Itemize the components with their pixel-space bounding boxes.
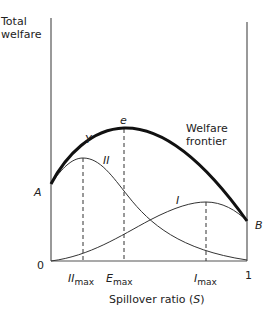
curve-ii <box>51 158 247 260</box>
ii-max-label: IImax <box>68 272 95 287</box>
origin-label: 0 <box>37 259 44 272</box>
point-e-label: e <box>120 114 127 127</box>
point-a-label: A <box>33 186 42 199</box>
i-max-label: Imax <box>194 272 218 287</box>
frontier-label-1: Welfare <box>186 122 228 135</box>
one-label: 1 <box>245 269 252 282</box>
x-axis-label: Spillover ratio (S) <box>109 293 205 306</box>
welfare-diagram: Total welfare A B Y e II I Welfare front… <box>0 0 272 315</box>
curve-ii-label: II <box>103 154 110 167</box>
e-max-label: Emax <box>106 272 133 287</box>
curve-i <box>51 202 247 261</box>
y-axis-label-2: welfare <box>1 28 42 41</box>
curve-i-label: I <box>176 194 179 207</box>
point-b-label: B <box>255 219 263 232</box>
y-axis-label-1: Total <box>0 15 27 28</box>
frontier-label-2: frontier <box>186 135 227 148</box>
